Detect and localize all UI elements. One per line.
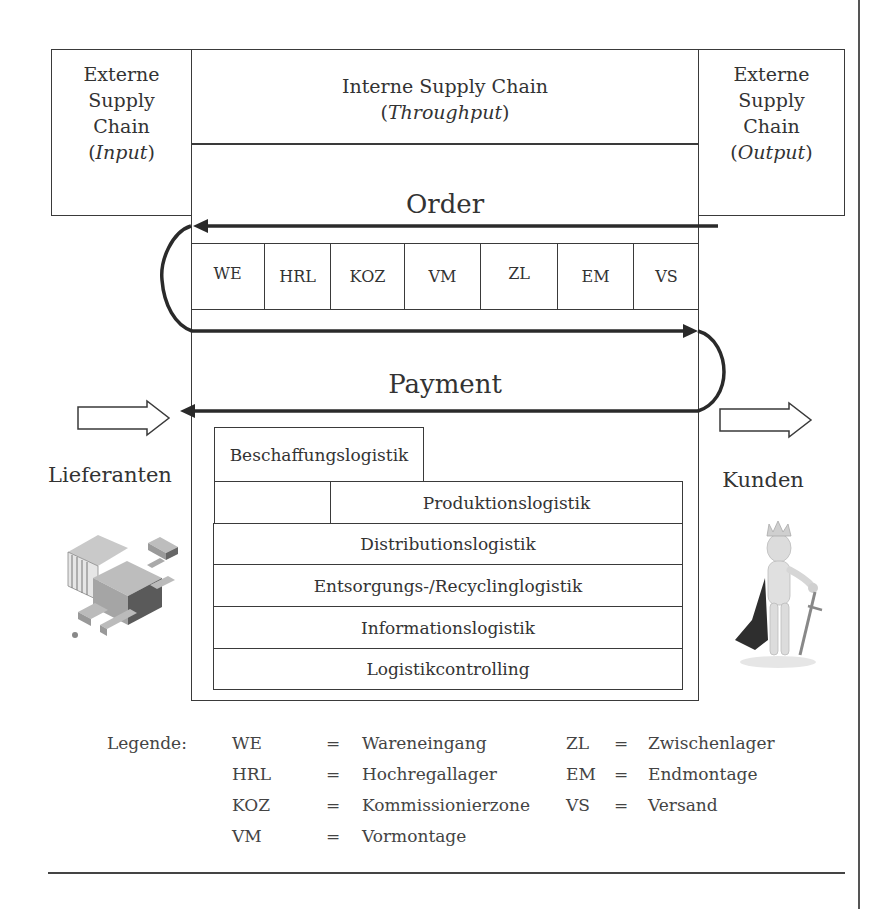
legend-text: Vormontage <box>362 826 466 846</box>
legend-text: Hochregallager <box>362 764 497 784</box>
logistikcontrolling-box: Logistikcontrolling <box>213 648 683 690</box>
entsorgungslogistik-box: Entsorgungs-/Recyclinglogistik <box>213 564 683 607</box>
suppliers-label: Lieferanten <box>40 463 180 487</box>
legend-abbr: HRL <box>232 764 271 784</box>
legend-eq: = <box>326 764 340 784</box>
customers-label: Kunden <box>708 468 818 492</box>
informationslogistik-box: Informationslogistik <box>213 606 683 649</box>
customer-arrow-icon <box>720 403 811 437</box>
produktionslogistik-box: Produktionslogistik <box>330 481 683 524</box>
legend-abbr: KOZ <box>232 795 270 815</box>
legend-eq: = <box>614 764 628 784</box>
legend-text: Kommissionierzone <box>362 795 530 815</box>
king-figure-icon <box>735 521 822 668</box>
legend-abbr: ZL <box>566 733 589 753</box>
distributionslogistik-box: Distributionslogistik <box>213 523 683 565</box>
legend-title: Legende: <box>107 733 187 753</box>
legend-abbr: VS <box>566 795 590 815</box>
legend-eq: = <box>326 826 340 846</box>
legend-abbr: EM <box>566 764 596 784</box>
left-loop-arrow <box>162 226 192 331</box>
legend-text: Versand <box>648 795 718 815</box>
bottom-rule <box>48 872 845 874</box>
return-arrowhead-icon <box>683 324 698 338</box>
legend-eq: = <box>614 795 628 815</box>
legend-eq: = <box>326 795 340 815</box>
legend-text: Wareneingang <box>362 733 487 753</box>
factory-illustration-icon <box>68 535 178 638</box>
beschaffungslogistik-box: Beschaffungslogistik <box>214 427 424 482</box>
legend-eq: = <box>614 733 628 753</box>
payment-arrowhead-icon <box>180 404 195 418</box>
legend-text: Zwischenlager <box>648 733 775 753</box>
order-arrowhead-icon <box>193 219 208 233</box>
supplier-arrow-icon <box>78 401 169 435</box>
legend-eq: = <box>326 733 340 753</box>
right-loop-arrow <box>698 331 724 411</box>
legend-abbr: WE <box>232 733 262 753</box>
legend-text: Endmontage <box>648 764 757 784</box>
legend-abbr: VM <box>232 826 262 846</box>
produktionslogistik-spacer-box <box>214 481 331 524</box>
